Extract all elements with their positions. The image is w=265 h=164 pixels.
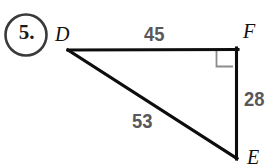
- side-length-label-fe: 28: [244, 89, 264, 109]
- geometry-figure: 5. D F E 45 28 53: [0, 0, 265, 164]
- vertex-label-f: F: [243, 21, 255, 41]
- problem-number-label: 5.: [11, 22, 42, 43]
- side-length-label-df: 45: [144, 24, 164, 44]
- vertex-label-e: E: [247, 147, 259, 164]
- vertex-label-d: D: [55, 24, 69, 44]
- side-length-label-de: 53: [132, 111, 152, 131]
- triangle-side-df: [68, 50, 238, 51]
